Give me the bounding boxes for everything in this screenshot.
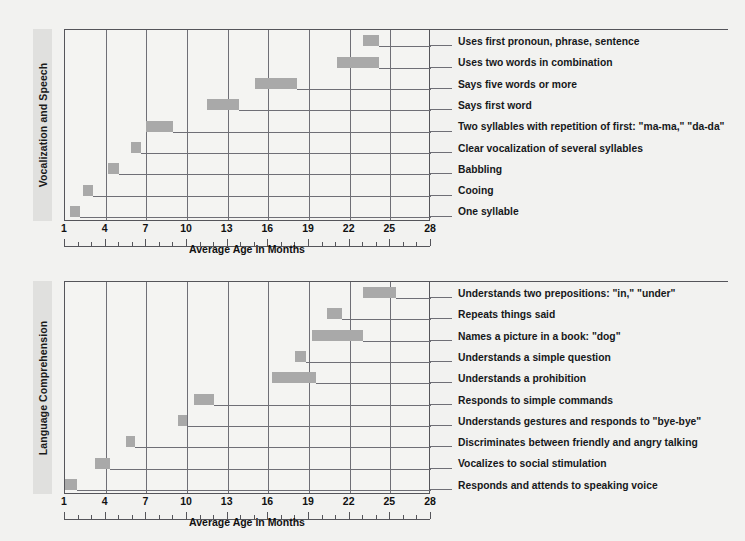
chart2-label-top-rule	[430, 281, 728, 282]
label-connector	[430, 468, 452, 469]
gridline-month-10	[187, 30, 188, 220]
label-connector	[430, 131, 452, 132]
label-connector	[430, 318, 452, 319]
gridline-month-22	[350, 282, 351, 493]
label-connector	[430, 88, 452, 89]
label-connector	[430, 173, 452, 174]
milestone-label: Clear vocalization of several syllables	[458, 143, 643, 154]
milestone-label: Understands a prohibition	[458, 373, 586, 384]
x-tick-label-22: 22	[343, 495, 355, 507]
milestone-leader-line	[306, 362, 431, 363]
label-connector	[430, 404, 452, 405]
label-connector	[430, 446, 452, 447]
milestone-label: Two syllables with repetition of first: …	[458, 121, 725, 132]
milestone-label: Repeats things said	[458, 309, 555, 320]
label-connector	[430, 67, 452, 68]
gridline-month-4	[106, 30, 107, 220]
milestone-bar	[272, 372, 315, 383]
milestone-bar	[327, 308, 342, 319]
label-connector	[430, 216, 452, 217]
chart1-side-label-band: Vocalization and Speech	[33, 29, 52, 221]
milestone-bar	[295, 351, 306, 362]
label-connector	[430, 489, 452, 490]
milestone-label: Uses two words in combination	[458, 57, 612, 68]
milestone-leader-line	[77, 490, 431, 491]
milestone-bar	[207, 99, 238, 110]
label-connector	[430, 195, 452, 196]
milestone-bar	[146, 121, 173, 132]
milestone-leader-line	[342, 319, 431, 320]
milestone-label: Understands gestures and responds to "by…	[458, 416, 701, 427]
chart2-axis-title: Average Age in Months	[64, 516, 430, 528]
milestone-bar	[178, 415, 187, 426]
milestone-bar	[255, 78, 297, 89]
milestone-leader-line	[379, 46, 431, 47]
x-tick-label-28: 28	[424, 495, 436, 507]
milestone-leader-line	[396, 298, 431, 299]
chart1-label-top-rule	[430, 29, 728, 30]
milestone-label: Uses first pronoun, phrase, sentence	[458, 36, 639, 47]
label-connector	[430, 425, 452, 426]
gridline-month-16	[268, 30, 269, 220]
milestone-label: Discriminates between friendly and angry…	[458, 437, 698, 448]
gridline-month-19	[309, 282, 310, 493]
x-tick-label-13: 13	[221, 222, 233, 234]
chart2-category-title: Language Comprehension	[37, 320, 49, 455]
milestone-leader-line	[214, 405, 431, 406]
label-connector	[430, 382, 452, 383]
milestone-bar	[83, 185, 94, 196]
x-tick-label-1: 1	[61, 222, 67, 234]
milestone-leader-line	[379, 68, 431, 69]
gridline-month-13	[228, 30, 229, 220]
chart-panel-vocalization-and-speech: Vocalization and Speech 1471013161922252…	[0, 0, 745, 262]
milestone-leader-line	[239, 110, 431, 111]
x-axis-tick-28	[430, 512, 431, 519]
milestone-bar	[70, 206, 79, 217]
chart1-category-title: Vocalization and Speech	[37, 63, 49, 188]
milestone-leader-line	[119, 174, 431, 175]
milestone-bar	[194, 394, 214, 405]
x-tick-label-4: 4	[102, 495, 108, 507]
milestone-label: Responds and attends to speaking voice	[458, 480, 658, 491]
milestone-bar	[337, 57, 379, 68]
milestone-label: One syllable	[458, 206, 519, 217]
milestone-leader-line	[141, 153, 431, 154]
chart1-plot-area	[64, 29, 430, 221]
gridline-month-16	[268, 282, 269, 493]
milestone-leader-line	[93, 196, 431, 197]
x-tick-label-10: 10	[180, 495, 192, 507]
milestone-bar	[95, 458, 110, 469]
x-tick-label-19: 19	[302, 495, 314, 507]
chart2-plot-area	[64, 281, 430, 494]
milestone-bar	[126, 436, 135, 447]
x-tick-label-25: 25	[383, 222, 395, 234]
milestone-label: Babbling	[458, 164, 502, 175]
milestone-leader-line	[80, 217, 431, 218]
x-tick-label-19: 19	[302, 222, 314, 234]
gridline-month-10	[187, 282, 188, 493]
milestone-bar	[363, 287, 396, 298]
x-tick-label-22: 22	[343, 222, 355, 234]
label-connector	[430, 152, 452, 153]
milestone-leader-line	[363, 341, 431, 342]
x-tick-label-25: 25	[383, 495, 395, 507]
milestone-label: Says five words or more	[458, 79, 577, 90]
label-connector	[430, 361, 452, 362]
milestone-label: Names a picture in a book: "dog"	[458, 331, 621, 342]
milestone-label: Understands a simple question	[458, 352, 611, 363]
milestone-label: Responds to simple commands	[458, 395, 613, 406]
milestone-leader-line	[135, 447, 431, 448]
gridline-month-7	[146, 282, 147, 493]
milestone-label: Cooing	[458, 185, 493, 196]
milestone-leader-line	[187, 426, 431, 427]
x-tick-label-7: 7	[142, 222, 148, 234]
label-connector	[430, 340, 452, 341]
x-tick-label-13: 13	[221, 495, 233, 507]
developmental-milestones-figure: Vocalization and Speech 1471013161922252…	[0, 0, 745, 541]
label-connector	[430, 109, 452, 110]
chart2-side-label-band: Language Comprehension	[33, 281, 52, 494]
x-tick-label-1: 1	[61, 495, 67, 507]
label-connector	[430, 297, 452, 298]
x-tick-label-10: 10	[180, 222, 192, 234]
milestone-label: Understands two prepositions: "in," "und…	[458, 288, 675, 299]
